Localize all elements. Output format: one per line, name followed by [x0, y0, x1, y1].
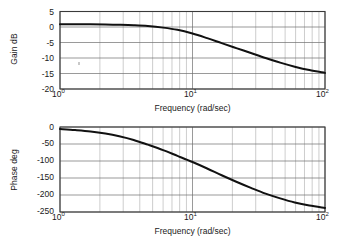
- gain-x-axis-label: Frequency (rad/sec): [60, 103, 325, 113]
- gain-plot: Gain dB 5 0 -5 -10 -15 -20 100 101 102 F…: [0, 0, 347, 125]
- gain-xtick-10: 101: [184, 90, 197, 99]
- phase-x-axis-label: Frequency (rad/sec): [60, 226, 325, 236]
- gain-xtick-1: 100: [52, 90, 65, 99]
- phase-xtick-100: 102: [316, 213, 329, 222]
- phase-xtick-10: 101: [184, 213, 197, 222]
- phase-plot: Phase deg 0 -50 -100 -150 -200 -250 100 …: [0, 118, 347, 250]
- gain-minor-gridlines: [100, 12, 319, 90]
- bode-plot-figure: Gain dB 5 0 -5 -10 -15 -20 100 101 102 F…: [0, 0, 347, 250]
- scan-artifact-speck: [78, 62, 80, 65]
- gain-xtick-100: 102: [316, 90, 329, 99]
- phase-xtick-1: 100: [52, 213, 65, 222]
